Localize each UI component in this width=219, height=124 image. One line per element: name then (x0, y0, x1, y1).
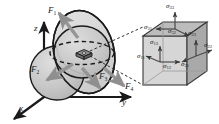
sigma-33-label: σ33 (166, 3, 174, 10)
sigma-33-base: σ (166, 2, 169, 10)
sigma-32-base: σ (168, 27, 171, 35)
force-F1-label: F1 (48, 6, 56, 15)
sigma-32-sub: 32 (172, 30, 176, 35)
sigma-21-label: σ21 (181, 61, 189, 68)
sigma-23-sub: 23 (192, 32, 196, 37)
sigma-12-sub: 12 (167, 65, 171, 70)
force-F1-base: F (48, 5, 54, 15)
sigma-21-base: σ (181, 60, 184, 68)
sigma-32-label: σ32 (168, 28, 176, 35)
x-axis-label: x (19, 104, 23, 113)
sigma-11-base: σ (137, 52, 140, 60)
sigma-23-base: σ (188, 29, 191, 37)
force-F1-sub: 1 (54, 10, 57, 16)
stress-tensor-figure: z y x F1 F2 F3 F4 σ33 σ31 σ32 σ13 σ11 σ1… (0, 0, 219, 124)
sigma-11-sub: 11 (141, 55, 145, 60)
sigma-12-label: σ12 (163, 63, 171, 70)
sigma-13-base: σ (150, 38, 153, 46)
sigma-31-label: σ31 (144, 24, 152, 31)
sigma-22-base: σ (204, 41, 207, 49)
sigma-22-sub: 22 (208, 44, 212, 49)
sigma-13-sub: 13 (154, 41, 158, 46)
sigma-33-sub: 33 (170, 5, 174, 10)
force-F4-sub: 4 (131, 86, 134, 92)
force-F2-base: F (31, 64, 37, 74)
sigma-31-base: σ (144, 23, 147, 31)
element-center-dot (83, 52, 86, 55)
force-F4-label: F4 (125, 82, 133, 91)
sigma-21-sub: 21 (185, 63, 189, 68)
force-F2-label: F2 (31, 65, 39, 74)
y-axis-label: y (122, 98, 126, 107)
force-F4-base: F (125, 81, 131, 91)
force-F3-base: F (99, 71, 105, 81)
sigma-22-label: σ22 (204, 42, 212, 49)
sigma-31-sub: 31 (148, 26, 152, 31)
sigma-23-label: σ23 (188, 30, 196, 37)
force-F2-sub: 2 (37, 69, 40, 75)
z-axis-label: z (34, 24, 38, 33)
force-F3-sub: 3 (105, 76, 108, 82)
sigma-11-label: σ11 (137, 53, 145, 60)
force-F3-label: F3 (99, 72, 107, 81)
sigma-12-base: σ (163, 62, 166, 70)
sigma-13-label: σ13 (150, 39, 158, 46)
